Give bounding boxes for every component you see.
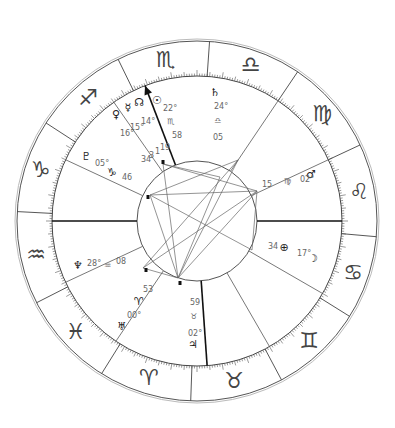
degree-tick [82, 128, 84, 130]
degree-tick [111, 340, 114, 344]
degree-tick [96, 327, 98, 329]
degree-tick [154, 360, 155, 362]
degree-tick [57, 175, 59, 176]
degree-tick [67, 152, 69, 153]
degree-tick [89, 120, 91, 122]
degree-tick [258, 86, 260, 90]
house-cusp-5 [227, 273, 270, 347]
cusp-label: 24° [214, 102, 228, 111]
degree-tick [239, 360, 240, 362]
sign-glyph-taurus-icon: ♉ [224, 368, 244, 393]
degree-tick [56, 263, 58, 264]
sign-glyph-capricorn-icon: ♑ [31, 157, 51, 182]
degree-tick [106, 335, 108, 337]
degree-tick [314, 306, 316, 307]
cusp-label: 53 [143, 285, 153, 294]
cusp-label: ♒ [104, 261, 111, 270]
degree-tick [59, 273, 61, 274]
degree-tick [53, 259, 57, 260]
degree-tick [258, 352, 260, 356]
degree-tick [325, 152, 327, 153]
degree-tick [145, 79, 147, 85]
degree-tick [323, 294, 328, 297]
degree-tick [68, 291, 70, 292]
degree-tick [87, 122, 89, 124]
cusp-label: 58 [172, 131, 182, 140]
degree-tick [327, 285, 329, 286]
degree-tick [100, 332, 104, 337]
degree-tick [249, 83, 250, 85]
degree-tick [66, 294, 71, 297]
cusp-label: 19 [160, 143, 170, 152]
degree-tick [222, 72, 223, 78]
degree-tick [61, 163, 63, 164]
degree-tick [308, 314, 313, 318]
degree-tick [335, 175, 337, 176]
cusp-label: 05° [95, 159, 109, 168]
degree-tick [301, 322, 303, 324]
degree-tick [156, 360, 157, 362]
sign-glyph-gemini-icon: ♊ [299, 328, 319, 353]
degree-tick [66, 146, 71, 149]
degree-tick [130, 90, 131, 92]
degree-tick [171, 364, 172, 370]
degree-tick [81, 314, 86, 318]
cusp-label: 34 [268, 242, 278, 251]
sign-glyph-libra-icon: ♎ [241, 52, 261, 77]
degree-tick [151, 359, 152, 361]
degree-tick [335, 266, 337, 267]
degree-tick [317, 139, 319, 140]
cusp-label: ♉ [190, 312, 197, 321]
planet-saturn-icon: ♄ [210, 86, 220, 99]
degree-tick [91, 119, 93, 121]
sign-boundary-line [328, 145, 360, 160]
degree-tick [121, 345, 122, 347]
degree-tick [222, 364, 223, 370]
degree-tick [58, 268, 60, 269]
degree-tick [62, 161, 64, 162]
planet-pluto-icon: ♇ [81, 150, 91, 163]
degree-tick [336, 180, 338, 181]
degree-tick [254, 85, 255, 87]
degree-tick [149, 82, 150, 84]
degree-tick [316, 304, 320, 307]
degree-tick [284, 103, 286, 105]
sign-boundary-line [118, 59, 133, 90]
sign-glyph-scorpio-icon: ♏ [156, 47, 176, 72]
degree-tick [286, 335, 288, 337]
degree-tick [296, 327, 298, 329]
degree-tick [158, 77, 159, 81]
degree-tick [316, 135, 320, 138]
degree-tick [86, 124, 88, 126]
degree-tick [276, 343, 277, 345]
degree-tick [75, 135, 79, 138]
sign-boundary-line [207, 41, 209, 76]
degree-tick [286, 105, 288, 107]
degree-tick [72, 143, 74, 144]
degree-tick [62, 282, 66, 284]
degree-tick [247, 79, 249, 85]
aspect-circle [137, 161, 257, 281]
degree-tick [100, 110, 102, 112]
degree-tick [270, 90, 273, 95]
degree-tick [244, 358, 245, 360]
sign-boundary-line [46, 123, 75, 142]
degree-tick [313, 308, 315, 310]
degree-tick [292, 330, 294, 332]
degree-tick [59, 168, 61, 169]
degree-tick [91, 322, 93, 324]
degree-tick [62, 280, 64, 281]
sign-boundary-line [17, 212, 52, 214]
degree-tick [280, 99, 283, 103]
degree-tick [78, 134, 80, 135]
sign-glyph-sagittarius-icon: ♐ [78, 85, 98, 110]
planet-sun-icon: ☉ [152, 94, 162, 107]
sign-boundary-line [278, 72, 298, 101]
degree-tick [104, 106, 106, 108]
degree-tick [317, 302, 319, 303]
degree-tick [134, 352, 136, 356]
degree-tick [111, 99, 114, 103]
degree-tick [71, 145, 73, 146]
degree-tick [333, 271, 339, 273]
degree-tick [106, 105, 108, 107]
